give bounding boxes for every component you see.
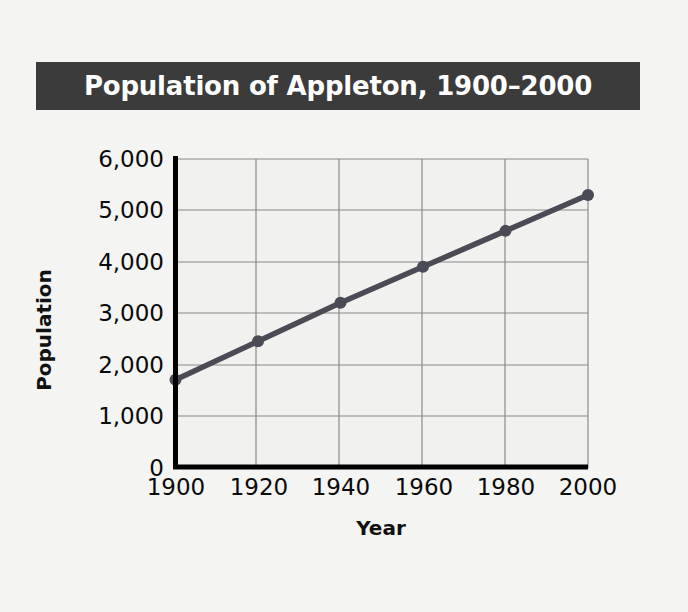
plot-area: Population 6,000 5,000 4,000 3,000 2,000…: [0, 120, 688, 590]
chart-figure: Population of Appleton, 1900–2000 Popula…: [0, 0, 688, 612]
chart-canvas: [0, 120, 688, 520]
data-point-1960: [417, 261, 429, 273]
data-point-1940: [335, 297, 347, 309]
data-point-2000: [582, 189, 594, 201]
data-point-1980: [500, 225, 512, 237]
data-point-1920: [252, 335, 264, 347]
chart-title-bar: Population of Appleton, 1900–2000: [36, 62, 640, 110]
chart-title: Population of Appleton, 1900–2000: [84, 71, 592, 101]
